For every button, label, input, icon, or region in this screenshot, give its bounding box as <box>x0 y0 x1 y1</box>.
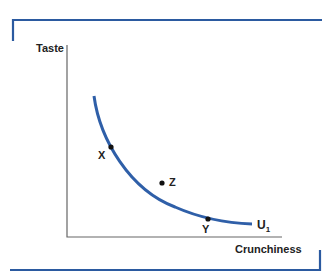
point-y <box>205 216 210 221</box>
point-y-label: Y <box>202 223 209 235</box>
curve-label-main: U <box>257 218 266 232</box>
x-axis-label: Crunchiness <box>235 243 302 255</box>
frame-top-line <box>13 20 322 41</box>
point-z-label: Z <box>169 176 176 188</box>
curve-label-sub: 1 <box>266 225 270 234</box>
indifference-curve-u1 <box>94 96 252 224</box>
chart-figure: Taste Crunchiness X Z Y U1 <box>0 0 330 275</box>
y-axis-label: Taste <box>36 42 64 54</box>
point-z <box>159 180 164 185</box>
point-x <box>108 144 113 149</box>
curve-label-u1: U1 <box>257 218 270 234</box>
point-x-label: X <box>98 149 105 161</box>
